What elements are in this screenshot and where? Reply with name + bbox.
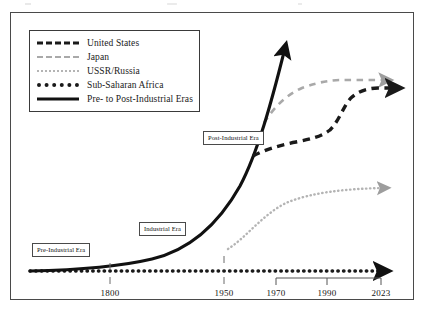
legend-swatch-ussr-russia	[35, 65, 81, 77]
legend-swatch-japan	[35, 51, 81, 63]
series-ussr-russia	[228, 188, 382, 249]
axis-bracket-1970-2023	[276, 278, 381, 285]
annotation-pre-industrial-era: Pre-Industrial Era	[32, 243, 90, 257]
annotation-industrial-era: Industrial Era	[139, 222, 186, 236]
series-japan	[264, 80, 384, 123]
legend-item-sub-saharan-africa: Sub-Saharan Africa	[35, 78, 195, 92]
x-tick-label-1970: 1970	[267, 288, 286, 298]
legend-label-united-states: United States	[87, 37, 139, 49]
legend-label-japan: Japan	[87, 51, 109, 63]
x-tick-label-2023: 2023	[372, 288, 391, 298]
legend-label-sub-saharan-africa: Sub-Saharan Africa	[87, 79, 163, 91]
legend-item-united-states: United States	[35, 36, 195, 50]
legend-item-pre-to-post-industrial-eras: Pre- to Post-Industrial Eras	[35, 92, 195, 106]
x-tick-label-1800: 1800	[101, 288, 120, 298]
annotation-post-industrial-era: Post-Industrial Era	[203, 131, 264, 145]
chart-page: United States Japan USSR/Russia Sub-Saha…	[0, 0, 426, 316]
legend-label-ussr-russia: USSR/Russia	[87, 65, 140, 77]
legend-label-pre-to-post-industrial-eras: Pre- to Post-Industrial Eras	[87, 93, 193, 105]
legend-item-japan: Japan	[35, 50, 195, 64]
x-tick-label-1990: 1990	[318, 288, 337, 298]
x-tick-label-1950: 1950	[215, 288, 234, 298]
legend-swatch-sub-saharan-africa	[35, 79, 81, 91]
series-united-states	[253, 88, 392, 156]
legend-swatch-united-states	[35, 37, 81, 49]
legend-swatch-pre-to-post-industrial-eras	[35, 93, 81, 105]
legend-item-ussr-russia: USSR/Russia	[35, 64, 195, 78]
chart-legend: United States Japan USSR/Russia Sub-Saha…	[29, 30, 200, 112]
